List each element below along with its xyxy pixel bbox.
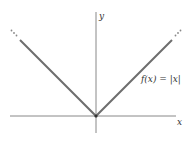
function-label: f(x) = |x| <box>140 74 181 85</box>
continuation-dots-right <box>175 30 182 37</box>
abs-value-graph: f(x) = |x| y x <box>0 0 193 142</box>
y-axis-label: y <box>98 11 105 21</box>
continuation-dots-left <box>11 30 18 37</box>
vertex-point <box>94 114 97 117</box>
x-axis-label: x <box>177 117 182 127</box>
